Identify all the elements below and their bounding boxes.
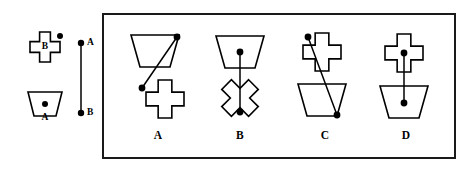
reference-shape-b-label: B — [42, 41, 49, 51]
reference-axis-bottom-dot — [78, 110, 84, 116]
reference-shape-a-label: A — [42, 112, 49, 122]
connector-endpoint-dot-bottom — [401, 100, 408, 107]
options-layer: ABCD — [131, 33, 428, 141]
connector-endpoint-dot-bottom — [139, 85, 146, 92]
answer-option-label: A — [154, 129, 163, 141]
connector-endpoint-dot-top — [401, 50, 408, 57]
trapezoid-shape — [298, 84, 346, 116]
trapezoid-shape — [131, 35, 179, 67]
reference-shape-b-dot — [57, 33, 63, 39]
reference-panel: B A A B — [28, 32, 94, 122]
spatial-reasoning-figure: B A A B ABCD — [0, 0, 470, 175]
answer-option-label: B — [236, 129, 244, 141]
answer-option-c[interactable]: C — [298, 33, 346, 141]
reference-shape-b: B — [30, 32, 63, 62]
reference-shape-a-dot — [42, 101, 48, 107]
figure-root: B A A B ABCD — [0, 0, 470, 175]
connector-endpoint-dot-bottom — [334, 112, 341, 119]
reference-axis-bottom-label: B — [87, 107, 94, 117]
connector-endpoint-dot-bottom — [237, 109, 244, 116]
answer-option-d[interactable]: D — [380, 34, 428, 141]
reference-axis-top-label: A — [87, 37, 94, 47]
connector-endpoint-dot-top — [174, 34, 181, 41]
reference-axis-top-dot — [78, 40, 84, 46]
answer-option-b[interactable]: B — [216, 36, 264, 141]
reference-shape-a: A — [28, 92, 62, 122]
connector-endpoint-dot-top — [305, 34, 312, 41]
answer-option-a[interactable]: A — [131, 34, 184, 141]
answer-option-label: D — [402, 129, 411, 141]
connector-endpoint-dot-top — [237, 49, 244, 56]
answer-option-label: C — [321, 129, 330, 141]
reference-axis: A B — [78, 37, 94, 117]
cross-shape — [146, 80, 184, 118]
